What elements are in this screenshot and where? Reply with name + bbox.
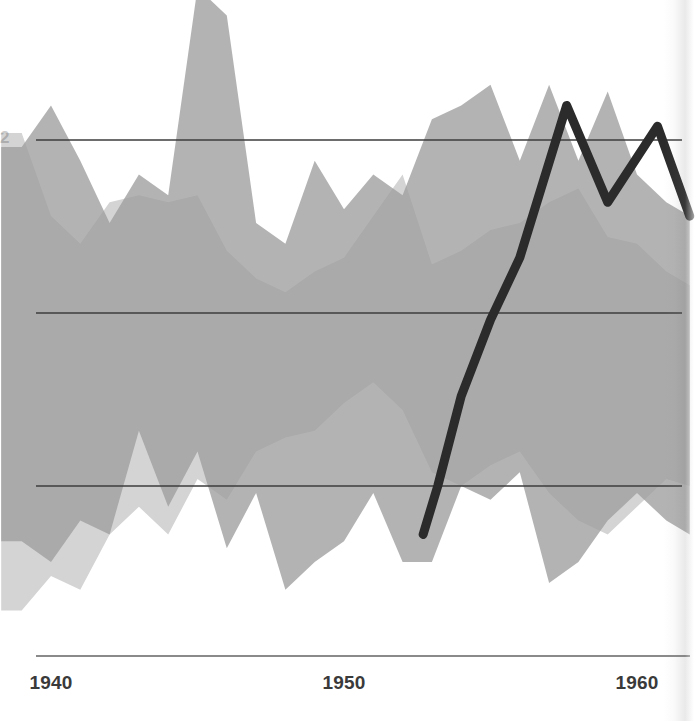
x-tick-label-1940: 1940 [29,672,72,694]
x-tick-label-1950: 1950 [322,672,365,694]
x-tick-label-1960: 1960 [615,672,658,694]
range-band-chart [0,0,698,721]
chart-figure: 25 1940 1950 1960 [0,0,698,721]
